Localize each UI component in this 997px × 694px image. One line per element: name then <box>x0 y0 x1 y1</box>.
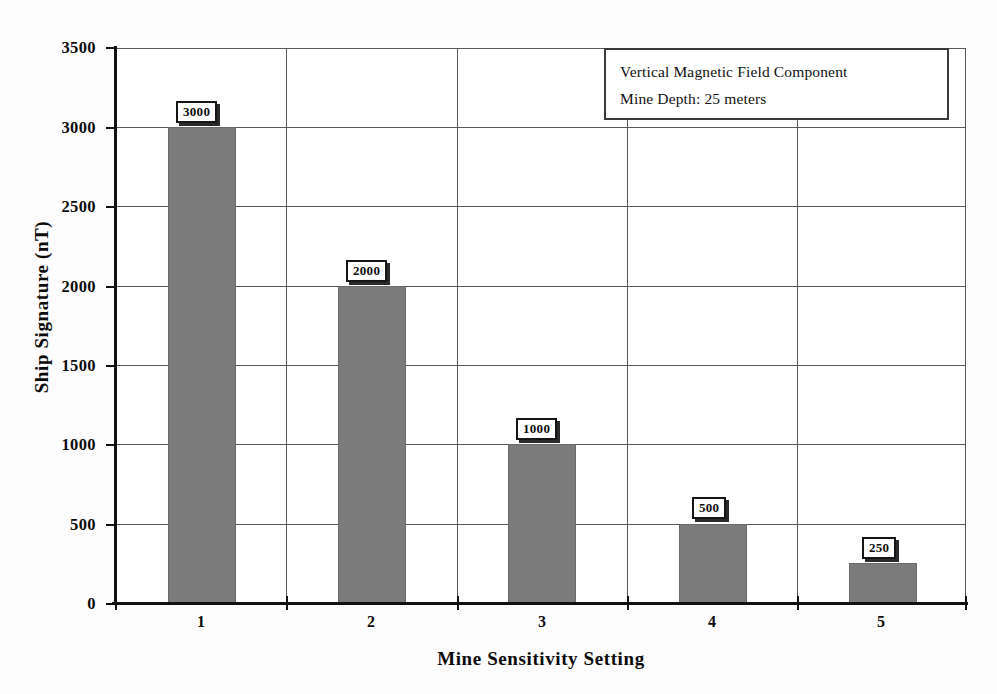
plot-right-border <box>965 48 966 603</box>
x-tick-mark-1 <box>286 596 288 610</box>
x-tick-label-5: 5 <box>851 613 911 631</box>
x-tick-mark-left <box>115 596 117 610</box>
y-axis-line <box>114 46 117 605</box>
data-label-category-4: 500 <box>692 497 726 519</box>
x-tick-label-1: 1 <box>171 613 231 631</box>
y-tick-mark-3000 <box>106 127 116 129</box>
annotation-box: Vertical Magnetic Field Component Mine D… <box>604 48 949 120</box>
y-tick-mark-2500 <box>106 206 116 208</box>
x-axis-title: Mine Sensitivity Setting <box>116 648 966 670</box>
bar-category-1[interactable] <box>168 127 236 603</box>
x-tick-mark-2 <box>457 596 459 610</box>
plot-area: 3000 2000 1000 500 250 Vertical Magnetic… <box>116 48 966 603</box>
y-tick-label-0: 0 <box>28 594 96 614</box>
bar-category-4[interactable] <box>679 524 747 603</box>
data-label-category-2: 2000 <box>346 260 387 282</box>
y-tick-mark-1500 <box>106 365 116 367</box>
gridline-vertical-3 <box>627 48 628 603</box>
bar-category-5[interactable] <box>849 563 917 603</box>
gridline-horizontal-2000 <box>116 286 966 287</box>
y-tick-label-500: 500 <box>28 515 96 535</box>
annotation-line-2: Mine Depth: 25 meters <box>620 86 947 113</box>
y-axis-title: Ship Signature (nT) <box>31 117 53 497</box>
data-label-category-3: 1000 <box>516 418 557 440</box>
x-tick-label-3: 3 <box>512 613 572 631</box>
bar-category-3[interactable] <box>508 444 576 603</box>
y-tick-mark-2000 <box>106 286 116 288</box>
gridline-vertical-2 <box>457 48 458 603</box>
y-tick-mark-3500 <box>106 47 116 49</box>
x-tick-mark-3 <box>627 596 629 610</box>
x-tick-mark-4 <box>797 596 799 610</box>
gridline-horizontal-3000 <box>116 127 966 128</box>
gridline-vertical-1 <box>286 48 287 603</box>
gridline-horizontal-2500 <box>116 206 966 207</box>
y-tick-mark-1000 <box>106 444 116 446</box>
data-label-category-5: 250 <box>862 537 896 559</box>
x-tick-label-2: 2 <box>341 613 401 631</box>
annotation-line-1: Vertical Magnetic Field Component <box>620 59 947 86</box>
bar-category-2[interactable] <box>338 286 406 603</box>
data-label-category-1: 3000 <box>176 101 217 123</box>
gridline-vertical-4 <box>797 48 798 603</box>
x-axis-line <box>112 602 968 605</box>
x-tick-mark-right <box>965 596 967 610</box>
y-tick-label-3500: 3500 <box>28 38 96 58</box>
y-tick-mark-500 <box>106 524 116 526</box>
bar-chart-figure: 3000 2000 1000 500 250 Vertical Magnetic… <box>0 0 997 694</box>
gridline-horizontal-1500 <box>116 365 966 366</box>
x-tick-label-4: 4 <box>682 613 742 631</box>
